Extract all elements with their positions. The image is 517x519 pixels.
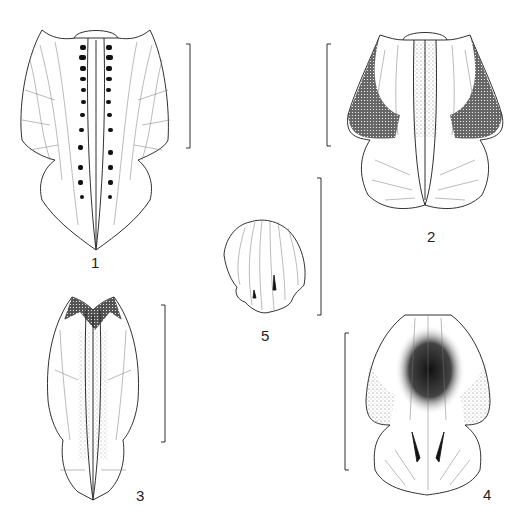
scale-bar-1 <box>186 44 190 148</box>
plate-drawing <box>0 0 517 519</box>
figure-3-label: 3 <box>136 488 144 503</box>
figure-4-lip <box>345 315 490 495</box>
figure-2-lip <box>327 33 503 209</box>
scale-bar-2 <box>327 44 331 146</box>
figure-5-lip <box>224 178 321 315</box>
illustration-plate: 1 2 3 4 5 <box>0 0 517 519</box>
figure-2-label: 2 <box>427 229 435 244</box>
figure-1-lip <box>21 30 190 250</box>
scale-bar-5 <box>317 178 321 315</box>
scale-bar-4 <box>345 333 349 470</box>
figure-5-label: 5 <box>261 328 269 343</box>
figure-1-label: 1 <box>91 255 99 270</box>
figure-4-label: 4 <box>483 487 491 502</box>
scale-bar-3 <box>161 305 165 442</box>
figure-3-lip <box>47 297 165 500</box>
